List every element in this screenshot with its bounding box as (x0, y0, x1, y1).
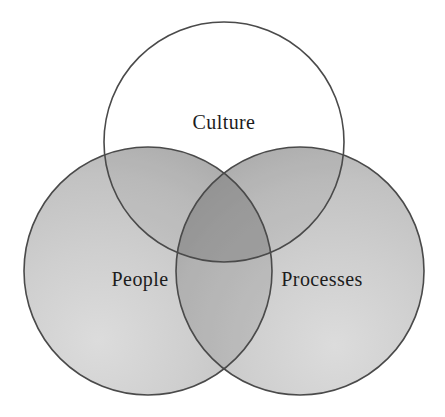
venn-diagram-figure: Culture People Processes (0, 0, 445, 417)
label-processes: Processes (281, 268, 362, 290)
label-people: People (112, 268, 169, 291)
venn-diagram-canvas: Culture People Processes (0, 0, 445, 417)
label-culture: Culture (193, 111, 256, 133)
